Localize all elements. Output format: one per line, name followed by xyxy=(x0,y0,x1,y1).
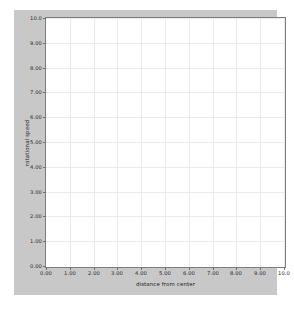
x-axis-tick-label: 3.00 xyxy=(111,270,123,276)
plot-area[interactable]: 0.001.002.003.004.005.006.007.008.009.00… xyxy=(45,17,286,268)
y-axis-tick xyxy=(43,216,46,217)
y-axis-tick xyxy=(43,92,46,93)
y-axis-tick xyxy=(43,18,46,19)
x-axis-tick-label: 0.00 xyxy=(40,270,52,276)
x-axis-tick-label: 1.00 xyxy=(64,270,76,276)
y-axis-tick xyxy=(43,68,46,69)
y-axis-tick xyxy=(43,43,46,44)
x-axis-tick-label: 9.00 xyxy=(254,270,266,276)
gridline-horizontal xyxy=(46,167,285,168)
y-axis-tick xyxy=(43,167,46,168)
x-axis-label: distance from center xyxy=(45,281,286,287)
y-axis-tick xyxy=(43,241,46,242)
x-axis-tick-label: 6.00 xyxy=(183,270,195,276)
gridline-horizontal xyxy=(46,216,285,217)
gridline-horizontal xyxy=(46,241,285,242)
gridline-horizontal xyxy=(46,192,285,193)
gridline-horizontal xyxy=(46,18,285,19)
gridline-horizontal xyxy=(46,142,285,143)
y-axis-label-container: rotational speed xyxy=(22,17,32,268)
gridline-horizontal xyxy=(46,117,285,118)
x-axis-tick-label: 4.00 xyxy=(135,270,147,276)
y-axis-tick xyxy=(43,142,46,143)
y-axis-label: rotational speed xyxy=(24,119,30,165)
y-axis-tick xyxy=(43,192,46,193)
x-axis-tick-label: 10.0 xyxy=(278,270,290,276)
figure-canvas: 0.001.002.003.004.005.006.007.008.009.00… xyxy=(14,10,277,295)
gridline-horizontal xyxy=(46,68,285,69)
x-axis-tick-label: 8.00 xyxy=(230,270,242,276)
x-axis-tick-label: 5.00 xyxy=(159,270,171,276)
y-axis-tick xyxy=(43,266,46,267)
x-axis-tick-label: 7.00 xyxy=(207,270,219,276)
gridline-horizontal xyxy=(46,92,285,93)
x-axis-tick-label: 2.00 xyxy=(88,270,100,276)
y-axis-tick xyxy=(43,117,46,118)
gridline-horizontal xyxy=(46,43,285,44)
